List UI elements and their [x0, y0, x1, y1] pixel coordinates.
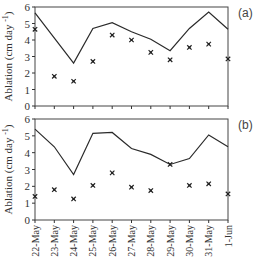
data-point-marker	[71, 197, 75, 201]
data-point-marker	[91, 59, 95, 63]
y-tick-label: 3	[25, 51, 31, 63]
data-point-marker	[52, 188, 56, 192]
y-tick-label: 5	[25, 18, 31, 30]
data-point-marker	[149, 50, 153, 54]
x-tick-label: 30-May	[184, 225, 195, 257]
panel-b-plot: 0123456Ablation (cm day -1)	[1, 113, 230, 226]
x-tick-label: 22-May	[30, 225, 41, 257]
y-tick-label: 1	[25, 84, 31, 96]
y-tick-label: 4	[25, 34, 31, 46]
x-tick-label: 28-May	[145, 225, 156, 257]
ablation-figure: 0123456Ablation (cm day -1) 0123456Ablat…	[0, 0, 257, 268]
x-tick-label: 23-May	[49, 225, 60, 257]
chart-canvas: 0123456Ablation (cm day -1) 0123456Ablat…	[0, 0, 257, 268]
x-axis-tick-labels: 22-May23-May24-May25-May26-May27-May28-M…	[30, 225, 234, 257]
y-tick-label: 5	[25, 130, 31, 142]
panel-a-label: (a)	[238, 6, 253, 20]
y-tick-label: 2	[25, 180, 31, 192]
data-point-marker	[207, 42, 211, 46]
x-tick-label: 29-May	[165, 225, 176, 257]
x-tick-label: 1-Jun	[223, 225, 234, 247]
y-tick-label: 6	[25, 113, 31, 125]
y-axis-label: Ablation (cm day -1)	[1, 11, 15, 101]
plot-frame	[35, 119, 228, 220]
x-tick-label: 24-May	[68, 225, 79, 257]
data-point-marker	[187, 183, 191, 187]
x-tick-label: 25-May	[87, 225, 98, 257]
plot-frame	[35, 7, 228, 106]
data-point-marker	[129, 185, 133, 189]
data-point-marker	[207, 182, 211, 186]
series-line	[35, 12, 228, 63]
panel-a-plot: 0123456Ablation (cm day -1)	[1, 1, 230, 112]
y-tick-label: 0	[25, 100, 31, 112]
data-point-marker	[129, 38, 133, 42]
y-axis-label: Ablation (cm day -1)	[1, 124, 15, 214]
data-point-marker	[187, 45, 191, 49]
data-point-marker	[149, 188, 153, 192]
series-line	[35, 129, 228, 174]
x-tick-label: 26-May	[107, 225, 118, 257]
y-tick-label: 2	[25, 67, 31, 79]
data-point-marker	[110, 171, 114, 175]
y-tick-label: 4	[25, 147, 31, 159]
x-tick-label: 27-May	[126, 225, 137, 257]
data-point-marker	[71, 79, 75, 83]
y-tick-label: 1	[25, 197, 31, 209]
y-tick-label: 0	[25, 214, 31, 226]
data-point-marker	[91, 183, 95, 187]
data-point-marker	[110, 33, 114, 37]
x-tick-label: 31-May	[203, 225, 214, 257]
y-tick-label: 3	[25, 164, 31, 176]
panel-b-label: (b)	[238, 118, 253, 132]
data-point-marker	[52, 74, 56, 78]
y-tick-label: 6	[25, 1, 31, 13]
data-point-marker	[168, 58, 172, 62]
